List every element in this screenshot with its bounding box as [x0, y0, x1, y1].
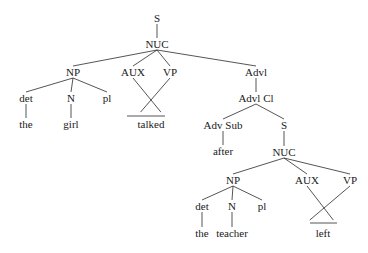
node-label: pl — [103, 93, 112, 104]
node-label: talked — [138, 119, 165, 130]
node-label: AUX — [121, 67, 145, 78]
tree-edge — [233, 186, 262, 200]
node-label: N — [228, 201, 236, 212]
node-label: girl — [63, 119, 78, 130]
node-label: Advl Cl — [238, 93, 273, 104]
syntax-tree-diagram — [0, 0, 368, 253]
tree-edge — [232, 186, 233, 200]
node-label: N — [67, 93, 75, 104]
tree-edge — [73, 78, 107, 92]
tree-edge — [256, 104, 284, 119]
tree-edge — [157, 50, 256, 66]
node-label: NP — [226, 175, 240, 186]
node-label: NUC — [272, 147, 295, 158]
node-label: after — [213, 146, 233, 157]
tree-edge — [71, 78, 73, 92]
node-label: the — [19, 119, 32, 130]
node-label: VP — [343, 175, 357, 186]
node-label: det — [195, 201, 208, 212]
node-label: left — [316, 228, 331, 239]
node-label: VP — [163, 67, 177, 78]
tree-edge — [284, 158, 350, 174]
node-label: Advl — [245, 67, 267, 78]
tree-edge — [157, 50, 170, 66]
node-label: S — [154, 13, 160, 24]
tree-edge — [26, 78, 73, 92]
tree-edge — [223, 104, 256, 119]
node-label: pl — [258, 201, 267, 212]
node-label: Adv Sub — [204, 120, 243, 131]
triangle-edge — [133, 78, 161, 112]
node-label: teacher — [216, 228, 248, 239]
node-label: S — [281, 120, 287, 131]
node-label: AUX — [295, 175, 319, 186]
node-label: det — [19, 93, 32, 104]
tree-edge — [233, 158, 284, 174]
node-label: NUC — [145, 39, 168, 50]
node-label: NP — [66, 67, 80, 78]
tree-edge — [202, 186, 233, 200]
triangle-edge — [141, 78, 170, 112]
node-label: the — [195, 228, 208, 239]
